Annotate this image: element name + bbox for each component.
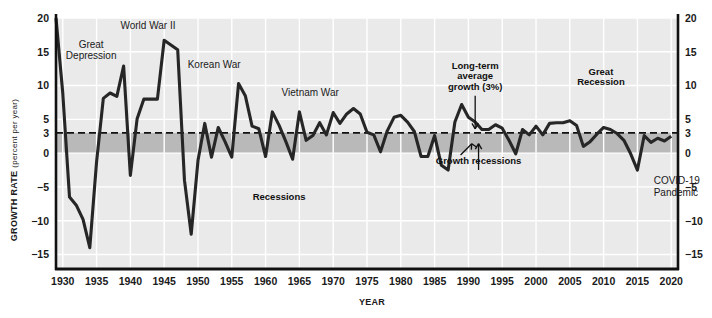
x-tick-label: 1940 <box>119 275 143 287</box>
annotation-korean-war: Korean War <box>188 59 242 70</box>
y-tick-label-right: −10 <box>685 215 703 227</box>
y-tick-label-right: 3 <box>685 127 691 139</box>
y-tick-label-right: −15 <box>685 248 703 260</box>
y-tick-label: 10 <box>37 79 49 91</box>
x-tick-label: 1960 <box>254 275 278 287</box>
annotation-covid-19-pandemic: COVID-19Pandemic <box>654 175 701 198</box>
x-tick-label: 1930 <box>51 275 75 287</box>
y-tick-label: 5 <box>43 113 49 125</box>
y-tick-label: −5 <box>37 181 49 193</box>
x-tick-label: 2020 <box>660 275 684 287</box>
x-axis-title: YEAR <box>359 297 385 307</box>
x-tick-label: 1970 <box>322 275 346 287</box>
annotation-recessions: Recessions <box>253 191 306 202</box>
x-tick-label: 1990 <box>457 275 481 287</box>
annotation-vietnam-war: Vietnam War <box>282 87 340 98</box>
x-tick-label: 1950 <box>186 275 210 287</box>
x-tick-label: 1980 <box>389 275 413 287</box>
y-tick-label-right: 5 <box>685 113 691 125</box>
x-tick-label: 1935 <box>85 275 109 287</box>
y-axis-title: GROWTH RATE (percent per year) <box>9 99 19 241</box>
y-tick-label-right: 10 <box>685 79 697 91</box>
x-tick-label: 1965 <box>288 275 312 287</box>
y-tick-label-right: 0 <box>685 147 691 159</box>
y-tick-label: 0 <box>43 147 49 159</box>
x-tick-label: 1985 <box>423 275 447 287</box>
x-tick-label: 1955 <box>220 275 244 287</box>
x-tick-label: 2005 <box>558 275 582 287</box>
growth-rate-chart: 201510530−5−10−15 201510530−5−10−15 1930… <box>0 0 712 318</box>
y-tick-label: −15 <box>31 248 49 260</box>
x-tick-label: 1975 <box>355 275 379 287</box>
y-tick-label: 15 <box>37 46 49 58</box>
x-tick-label: 1995 <box>491 275 515 287</box>
x-tick-label: 2015 <box>626 275 650 287</box>
y-tick-label: 3 <box>43 127 49 139</box>
x-tick-label: 2010 <box>592 275 616 287</box>
y-tick-label-right: 15 <box>685 46 697 58</box>
y-tick-label-right: 20 <box>685 12 697 24</box>
x-tick-label: 1945 <box>152 275 176 287</box>
y-tick-label: −10 <box>31 215 49 227</box>
chart-canvas: 201510530−5−10−15 201510530−5−10−15 1930… <box>0 0 712 318</box>
annotation-world-war-ii: World War II <box>120 20 175 31</box>
x-tick-label: 2000 <box>524 275 548 287</box>
y-tick-label: 20 <box>37 12 49 24</box>
